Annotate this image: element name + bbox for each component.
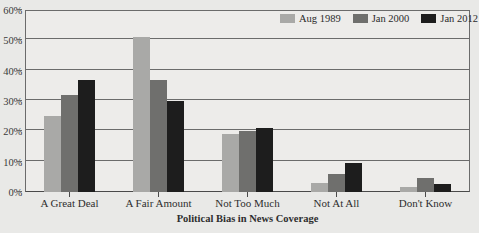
y-axis-tick-label: 40% xyxy=(0,65,22,76)
y-axis-tick-label: 60% xyxy=(0,5,22,16)
y-axis: 0%10%20%30%40%50%60% xyxy=(0,10,22,192)
y-axis-tick-mark xyxy=(17,39,22,40)
plot-area xyxy=(25,10,470,192)
category-label: Not Too Much xyxy=(203,197,292,209)
y-axis-tick-mark xyxy=(17,70,22,71)
y-axis-tick-label: 10% xyxy=(0,156,22,167)
legend-item[interactable]: Aug 1989 xyxy=(280,13,341,24)
y-axis-tick-mark xyxy=(17,130,22,131)
y-axis-tick-mark xyxy=(17,161,22,162)
y-axis-tick-mark xyxy=(17,191,22,192)
y-axis-tick-label: 0% xyxy=(0,187,22,198)
gridline xyxy=(26,160,469,161)
gridline xyxy=(26,38,469,39)
category-labels: A Great DealA Fair AmountNot Too MuchNot… xyxy=(25,197,470,209)
legend-item[interactable]: Jan 2000 xyxy=(353,13,410,24)
legend-label: Jan 2012 xyxy=(440,13,478,24)
legend-label: Aug 1989 xyxy=(299,13,341,24)
gridline xyxy=(26,99,469,100)
bar-chart: 0%10%20%30%40%50%60% A Great DealA Fair … xyxy=(0,0,479,233)
category-label: Don't Know xyxy=(381,197,470,209)
x-axis-title: Political Bias in News Coverage xyxy=(25,213,470,224)
legend-swatch-icon xyxy=(280,14,295,23)
gridline xyxy=(26,129,469,130)
y-axis-tick-mark xyxy=(17,100,22,101)
category-label: A Fair Amount xyxy=(114,197,203,209)
legend-item[interactable]: Jan 2012 xyxy=(421,13,478,24)
legend-swatch-icon xyxy=(353,14,368,23)
y-axis-tick-label: 50% xyxy=(0,35,22,46)
category-label: Not At All xyxy=(292,197,381,209)
y-axis-tick-mark xyxy=(17,9,22,10)
legend-swatch-icon xyxy=(421,14,436,23)
y-axis-tick-label: 30% xyxy=(0,96,22,107)
y-axis-tick-label: 20% xyxy=(0,126,22,137)
category-label: A Great Deal xyxy=(25,197,114,209)
legend-label: Jan 2000 xyxy=(372,13,410,24)
gridline xyxy=(26,69,469,70)
legend: Aug 1989Jan 2000Jan 2012 xyxy=(280,13,478,24)
